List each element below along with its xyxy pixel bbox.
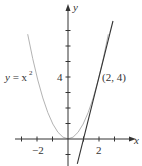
tick-label-neg2: −2: [32, 144, 44, 156]
curve-equation-label: y = x 2: [4, 69, 33, 83]
y-axis-label: y: [72, 1, 78, 13]
point-label: (2, 4): [102, 71, 126, 84]
chart: y x 4 −2 2 (2, 4) y = x 2: [0, 0, 142, 166]
svg-text:2: 2: [29, 69, 33, 77]
tick-label-2: 2: [96, 144, 102, 156]
tick-label-4: 4: [57, 71, 63, 83]
tangent-line: [77, 21, 113, 164]
svg-text:y = x: y = x: [4, 71, 28, 83]
y-axis-arrow-icon: [66, 4, 71, 11]
x-axis-label: x: [133, 134, 139, 146]
